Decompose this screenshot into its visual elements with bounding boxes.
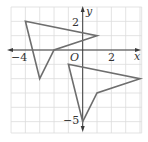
coordinate-plane-diagram: y x O −4 2 2 −5 — [0, 0, 148, 142]
x-tick-label-2: 2 — [108, 51, 115, 64]
y-tick-label-2: 2 — [72, 16, 79, 29]
x-tick-label-neg4: −4 — [11, 51, 27, 64]
y-tick-label-neg5: −5 — [63, 114, 79, 127]
y-axis-label: y — [85, 5, 93, 18]
x-axis-label: x — [134, 50, 141, 63]
origin-label: O — [70, 51, 79, 64]
y-axis-arrow-down-icon — [81, 126, 85, 132]
